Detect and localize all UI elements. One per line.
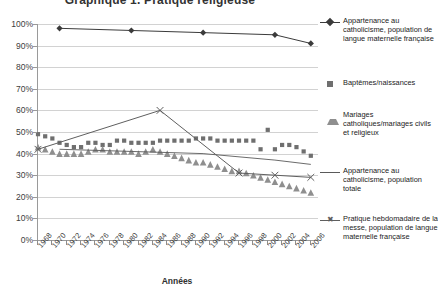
series-marker-square [158,139,162,143]
series-marker-square [230,139,234,143]
series-marker-square [215,139,219,143]
series-marker-triangle [200,159,207,166]
y-axis-tick [33,175,37,176]
series-marker-square [223,139,227,143]
legend-item[interactable]: Mariages catholiques/mariages civils et … [320,110,438,138]
series-marker-triangle [78,150,85,157]
series-marker-triangle [293,185,300,192]
series-marker-triangle [250,172,257,179]
y-axis-tick [33,67,37,68]
series-marker-triangle [56,150,63,157]
series-marker-triangle [193,159,200,166]
series-marker-square [201,136,205,140]
y-axis-label: 70% [0,84,33,94]
series-marker-square [165,139,169,143]
series-marker-square [43,134,47,138]
series-marker-triangle [214,163,221,170]
series-marker-square [115,139,119,143]
series-marker-square [187,139,191,143]
series-marker-square [79,145,83,149]
series-marker-triangle [164,150,171,157]
legend-label: Pratique hebdomadaire de la messe, popul… [343,214,438,242]
y-axis-tick [33,154,37,155]
series-marker-square [172,139,176,143]
legend-marker-triangle-icon [320,112,340,121]
series-marker-square [302,149,306,153]
series-marker-square [258,147,262,151]
y-axis-label: 10% [0,213,33,223]
series-marker-triangle [92,146,99,153]
series-marker-triangle [300,187,307,194]
series-marker-square [129,141,133,145]
y-axis-label: 50% [0,127,33,137]
y-axis-tick [33,197,37,198]
series-marker-square [294,145,298,149]
y-axis-label: 30% [0,170,33,180]
y-axis-tick [33,24,37,25]
legend-label: Mariages catholiques/mariages civils et … [343,110,438,138]
y-axis-label: 60% [0,105,33,115]
series-marker-triangle [178,155,185,162]
series-marker-square [266,128,270,132]
series-marker-square [65,143,69,147]
y-axis-tick [33,132,37,133]
series-marker-triangle [71,150,78,157]
series-marker-square [144,141,148,145]
series-marker-x [157,107,164,114]
series-marker-square [108,143,112,147]
series-marker-triangle [279,181,286,188]
series-marker-square [122,139,126,143]
y-axis-tick [33,89,37,90]
series-marker-triangle [99,146,106,153]
legend-label: Baptêmes/naissances [343,78,415,87]
series-marker-square [309,154,313,158]
series-line [38,110,311,177]
y-axis-label: 90% [0,41,33,51]
legend-item[interactable]: ✖Pratique hebdomadaire de la messe, popu… [320,214,438,242]
series-marker-diamond [128,27,134,33]
series-marker-triangle [49,148,56,155]
legend-item[interactable]: Appartenance au catholicisme, population… [320,16,438,44]
legend-marker-line-icon [320,168,340,177]
series-marker-triangle [264,176,271,183]
series-marker-triangle [221,165,228,172]
series-marker-diamond [56,25,62,31]
legend-marker-square-icon [320,80,340,89]
series-marker-triangle [85,148,92,155]
series-marker-diamond [200,30,206,36]
y-axis-label: 40% [0,149,33,159]
series-marker-square [151,141,155,145]
y-axis-label: 0% [0,235,33,245]
x-axis-title: Années [37,276,317,286]
plot-area [37,24,318,241]
series-marker-triangle [272,178,279,185]
series-marker-square [287,143,291,147]
y-axis-label: 80% [0,62,33,72]
legend-item[interactable]: Baptêmes/naissances [320,78,438,89]
legend-label: Appartenance au catholicisme, population… [343,166,438,194]
legend-item[interactable]: Appartenance au catholicisme, population… [320,166,438,194]
legend-marker-diamond-icon [320,18,340,27]
series-marker-square [136,141,140,145]
series-marker-triangle [157,148,164,155]
series-layer [38,24,318,240]
series-marker-triangle [286,183,293,190]
series-marker-square [50,136,54,140]
y-axis-tick [33,218,37,219]
chart-root: Graphique 1. Pratique religieuse 100%90%… [0,0,438,294]
series-marker-square [237,139,241,143]
series-marker-triangle [185,157,192,164]
series-marker-square [273,147,277,151]
legend-label: Appartenance au catholicisme, population… [343,16,438,44]
series-marker-triangle [308,189,315,196]
series-marker-square [93,141,97,145]
series-marker-triangle [207,161,214,168]
series-marker-square [251,139,255,143]
series-marker-square [72,145,76,149]
series-marker-triangle [171,152,178,159]
series-marker-square [244,139,248,143]
chart-title: Graphique 1. Pratique religieuse [0,0,320,7]
series-marker-triangle [63,150,70,157]
y-axis-label: 20% [0,192,33,202]
legend-marker-x-icon: ✖ [320,216,340,225]
